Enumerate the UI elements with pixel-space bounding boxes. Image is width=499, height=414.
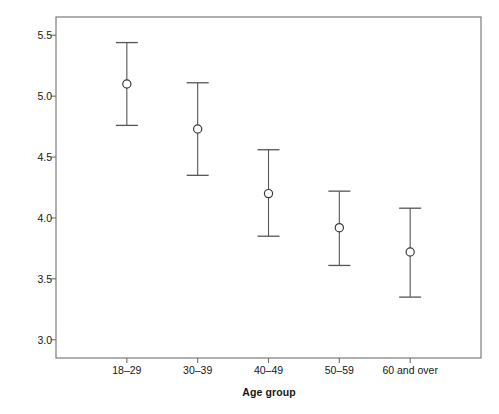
y-tick-label-text: 3.5 [12,273,52,285]
y-tick-label-text: 4.5 [12,151,52,163]
data-point-marker [123,80,131,88]
y-tick-label-text: 5.0 [12,90,52,102]
y-tick-label-text: 4.0 [12,212,52,224]
data-point-marker [264,189,272,197]
y-tick-label-text: 5.5 [12,29,52,41]
x-axis-title: Age group [56,386,482,398]
y-tick-label-text: 3.0 [12,334,52,346]
plot-area [0,0,499,414]
error-bar-chart: 95% CI satisfaction Age group 3.03.54.04… [0,0,499,414]
data-point-marker [335,224,343,232]
x-tick-label: 60 and over [350,364,470,376]
data-point-marker [194,125,202,133]
data-point-marker [406,248,414,256]
